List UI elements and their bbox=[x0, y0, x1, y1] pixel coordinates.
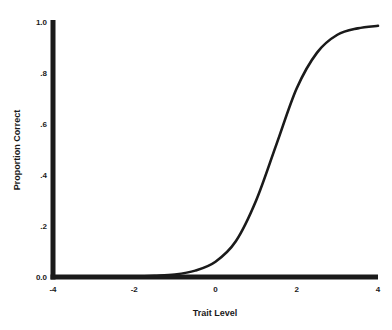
x-axis-label: Trait Level bbox=[193, 308, 238, 318]
x-tick-label: 4 bbox=[376, 285, 381, 294]
x-tick-label: 0 bbox=[213, 285, 218, 294]
y-tick-label: .2 bbox=[40, 222, 47, 231]
y-axis-label: Proportion Correct bbox=[12, 110, 22, 191]
x-tick-label: -4 bbox=[49, 285, 57, 294]
y-tick-label: 1.0 bbox=[36, 18, 48, 27]
x-tick-label: 2 bbox=[295, 285, 300, 294]
y-tick-label: .6 bbox=[40, 120, 47, 129]
y-tick-label: .4 bbox=[40, 171, 47, 180]
chart: 0.0.2.4.6.81.0 -4-2024 Trait Level Propo… bbox=[0, 0, 392, 330]
y-tick-label: 0.0 bbox=[36, 273, 48, 282]
icc-curve bbox=[53, 26, 378, 277]
y-tick-label: .8 bbox=[40, 69, 47, 78]
x-tick-label: -2 bbox=[131, 285, 139, 294]
